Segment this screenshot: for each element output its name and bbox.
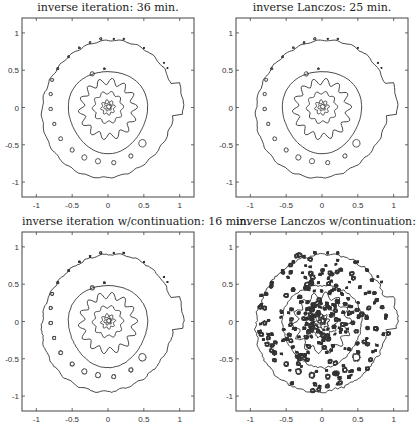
plot-frame	[22, 18, 194, 197]
y-tick-label: -0.5	[219, 141, 233, 150]
x-tick-label: 1	[177, 201, 182, 210]
y-tick-label: 0.5	[8, 66, 20, 75]
x-tick-label: -1	[33, 415, 41, 424]
y-tick-label: -1	[226, 392, 234, 401]
x-tick-label: 1	[391, 201, 396, 210]
x-tick-label: -1	[247, 201, 255, 210]
y-tick-label: 1	[15, 243, 20, 252]
panel-top-right: inverse Lanczos: 25 min. -1-0.500.51-1-0…	[214, 0, 419, 215]
x-tick-label: 0.5	[352, 201, 364, 210]
y-tick-label: -0.5	[219, 355, 233, 364]
y-tick-label: 0.5	[8, 280, 20, 289]
panel-bottom-left: inverse iteration w/continuation: 16 min…	[0, 214, 210, 436]
x-tick-label: -0.5	[65, 201, 79, 210]
y-tick-label: -1	[12, 392, 20, 401]
y-tick-label: -0.5	[5, 355, 19, 364]
y-tick-label: -0.5	[5, 141, 19, 150]
x-tick-label: 0.5	[138, 201, 150, 210]
x-tick-label: 1	[177, 415, 182, 424]
contour-plot: -1-0.500.51-1-0.500.51	[0, 214, 210, 436]
x-tick-label: -1	[247, 415, 255, 424]
x-tick-label: 0	[320, 415, 325, 424]
plot-frame	[236, 18, 408, 197]
contour-plot: -1-0.500.51-1-0.500.51	[214, 0, 419, 215]
x-tick-label: 0	[320, 201, 325, 210]
y-tick-label: 0	[15, 104, 20, 113]
panel-bottom-right: inverse Lanczos w/continuation: 19 min. …	[214, 214, 419, 436]
y-tick-label: 0	[229, 104, 234, 113]
panel-top-left: inverse iteration: 36 min. -1-0.500.51-1…	[0, 0, 210, 215]
contour-plot: -1-0.500.51-1-0.500.51	[214, 214, 419, 436]
x-tick-label: 0.5	[138, 415, 150, 424]
x-tick-label: 1	[391, 415, 396, 424]
y-tick-label: 1	[15, 29, 20, 38]
contour-plot: -1-0.500.51-1-0.500.51	[0, 0, 210, 215]
y-tick-label: -1	[226, 178, 234, 187]
y-tick-label: 0	[15, 318, 20, 327]
x-tick-label: -0.5	[65, 415, 79, 424]
x-tick-label: 0	[106, 415, 111, 424]
y-tick-label: 0.5	[222, 280, 234, 289]
x-tick-label: -0.5	[279, 201, 293, 210]
x-tick-label: -1	[33, 201, 41, 210]
x-tick-label: 0.5	[352, 415, 364, 424]
x-tick-label: 0	[106, 201, 111, 210]
y-tick-label: -1	[12, 178, 20, 187]
y-tick-label: 1	[229, 243, 234, 252]
y-tick-label: 0.5	[222, 66, 234, 75]
y-tick-label: 1	[229, 29, 234, 38]
x-tick-label: -0.5	[279, 415, 293, 424]
y-tick-label: 0	[229, 318, 234, 327]
